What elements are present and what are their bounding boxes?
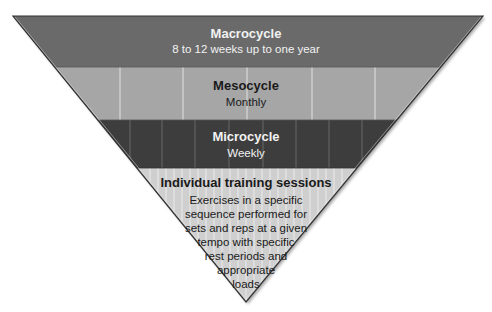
sessions-description-line: sequence performed for: [0, 207, 492, 221]
sessions-description-line: rest periods and: [0, 249, 492, 263]
macrocycle-subtitle: 8 to 12 weeks up to one year: [0, 42, 492, 56]
mesocycle-title: Mesocycle: [0, 78, 492, 93]
sessions-description-line: Exercises in a specific: [0, 193, 492, 207]
microcycle-subtitle: Weekly: [0, 146, 492, 160]
sessions-description-line: sets and reps at a given: [0, 221, 492, 235]
microcycle-title: Microcycle: [0, 129, 492, 144]
macrocycle-title: Macrocycle: [0, 26, 492, 41]
microcycle-band: [0, 120, 492, 168]
mesocycle-subtitle: Monthly: [0, 95, 492, 109]
sessions-description-line: appropriate: [0, 263, 492, 277]
sessions-description-line: tempo with specific: [0, 235, 492, 249]
sessions-description-line: loads: [0, 277, 492, 291]
sessions-title: Individual training sessions: [0, 175, 492, 190]
